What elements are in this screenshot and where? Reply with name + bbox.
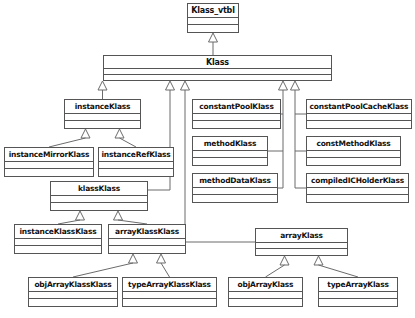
class-attributes-typeArrayKlass [319, 292, 397, 299]
class-name-typeArrayKlass: typeArrayKlass [319, 278, 397, 292]
class-operations-instanceMirrorKlass [5, 169, 93, 176]
class-name-methodDataKlass: methodDataKlass [193, 174, 277, 188]
generalization-arrow-right-column-to-klass [291, 81, 300, 90]
class-box-constMethodKlass[interactable]: constMethodKlass [306, 136, 401, 166]
class-operations-objArrayKlass [229, 299, 302, 306]
generalization-arrow-objArrayKlass-to-arrayKlass [280, 256, 289, 265]
class-box-instanceKlassKlass[interactable]: instanceKlassKlass [14, 224, 102, 254]
generalization-arrow-klass-to-klass_vtbl [209, 33, 218, 42]
class-operations-klass [104, 75, 331, 80]
class-name-typeArrayKlassKlass: typeArrayKlassKlass [123, 278, 216, 292]
class-name-klass_vtbl: Klass_vtbl [188, 4, 238, 18]
class-name-objArrayKlassKlass: objArrayKlassKlass [29, 278, 117, 292]
class-attributes-compiledICHolderKlass [307, 188, 408, 195]
class-box-instanceRefKlass[interactable]: instanceRefKlass [98, 147, 174, 177]
class-name-constantPoolCacheKlass: constantPoolCacheKlass [307, 100, 411, 114]
class-attributes-methodDataKlass [193, 188, 277, 195]
class-operations-objArrayKlassKlass [29, 299, 117, 306]
generalization-arrow-middle-column-to-klass [279, 81, 288, 90]
class-attributes-objArrayKlassKlass [29, 292, 117, 299]
class-operations-constMethodKlass [307, 158, 400, 165]
class-operations-klass_vtbl [188, 25, 238, 32]
class-box-objArrayKlass[interactable]: objArrayKlass [228, 277, 303, 307]
class-name-arrayKlass: arrayKlass [256, 229, 347, 243]
class-operations-constantPoolCacheKlass [307, 121, 411, 128]
class-box-arrayKlassKlass[interactable]: arrayKlassKlass [108, 224, 186, 254]
class-operations-methodKlass [193, 158, 267, 165]
class-name-constantPoolKlass: constantPoolKlass [193, 100, 280, 114]
class-attributes-klassKlass [51, 196, 147, 203]
class-name-instanceKlassKlass: instanceKlassKlass [15, 225, 101, 239]
generalization-arrow-arrayKlass-to-klass [181, 81, 190, 90]
generalization-arrow-objArrayKlassKlass-to-arrayKlassKlass [129, 254, 138, 263]
generalization-edge-typeArrayKlassKlass-to-arrayKlassKlass [161, 263, 170, 277]
class-box-klassKlass[interactable]: klassKlass [50, 181, 148, 211]
class-attributes-constantPoolKlass [193, 114, 280, 121]
class-box-objArrayKlassKlass[interactable]: objArrayKlassKlass [28, 277, 118, 307]
class-name-instanceRefKlass: instanceRefKlass [99, 148, 173, 162]
class-operations-methodDataKlass [193, 195, 277, 202]
class-attributes-instanceRefKlass [99, 162, 173, 169]
class-box-typeArrayKlass[interactable]: typeArrayKlass [318, 277, 398, 307]
class-attributes-instanceKlass [65, 114, 140, 121]
class-operations-constantPoolKlass [193, 121, 280, 128]
class-box-klass[interactable]: Klass [103, 55, 332, 81]
class-operations-typeArrayKlassKlass [123, 299, 216, 306]
class-name-methodKlass: methodKlass [193, 137, 267, 151]
class-box-compiledICHolderKlass[interactable]: compiledICHolderKlass [306, 173, 409, 203]
class-name-klass: Klass [104, 56, 331, 69]
class-attributes-instanceMirrorKlass [5, 162, 93, 169]
class-operations-typeArrayKlass [319, 299, 397, 306]
class-attributes-constantPoolCacheKlass [307, 114, 411, 121]
generalization-edge-instanceRefKlass-to-instanceKlass [120, 138, 137, 147]
generalization-arrow-instanceKlassKlass-to-klassKlass [76, 211, 85, 220]
class-name-constMethodKlass: constMethodKlass [307, 137, 400, 151]
class-box-methodDataKlass[interactable]: methodDataKlass [192, 173, 278, 203]
class-attributes-instanceKlassKlass [15, 239, 101, 246]
class-name-arrayKlassKlass: arrayKlassKlass [109, 225, 185, 239]
generalization-arrow-typeArrayKlassKlass-to-arrayKlassKlass [157, 254, 166, 263]
class-attributes-constMethodKlass [307, 151, 400, 158]
generalization-edge-typeArrayKlass-to-arrayKlass [319, 265, 359, 277]
generalization-edge-objArrayKlassKlass-to-arrayKlassKlass [73, 263, 133, 277]
class-operations-instanceKlassKlass [15, 246, 101, 253]
class-operations-arrayKlass [256, 249, 347, 255]
class-operations-klassKlass [51, 203, 147, 210]
class-attributes-methodKlass [193, 151, 267, 158]
class-attributes-klass_vtbl [188, 18, 238, 25]
class-name-instanceKlass: instanceKlass [65, 100, 140, 114]
class-operations-arrayKlassKlass [109, 246, 185, 253]
class-box-klass_vtbl[interactable]: Klass_vtbl [187, 3, 239, 33]
class-attributes-objArrayKlass [229, 292, 302, 299]
class-box-instanceMirrorKlass[interactable]: instanceMirrorKlass [4, 147, 94, 177]
generalization-arrow-instanceMirrorKlass-to-instanceKlass [81, 129, 90, 138]
generalization-edge-instanceMirrorKlass-to-instanceKlass [49, 138, 86, 147]
generalization-edge-objArrayKlass-to-arrayKlass [266, 265, 285, 277]
class-box-constantPoolCacheKlass[interactable]: constantPoolCacheKlass [306, 99, 412, 129]
generalization-arrow-instanceRefKlass-to-instanceKlass [115, 129, 124, 138]
class-operations-compiledICHolderKlass [307, 195, 408, 202]
class-box-constantPoolKlass[interactable]: constantPoolKlass [192, 99, 281, 129]
class-name-objArrayKlass: objArrayKlass [229, 278, 302, 292]
generalization-arrow-instanceKlass-to-klass [98, 81, 107, 90]
class-name-compiledICHolderKlass: compiledICHolderKlass [307, 174, 408, 188]
class-attributes-arrayKlassKlass [109, 239, 185, 246]
class-box-typeArrayKlassKlass[interactable]: typeArrayKlassKlass [122, 277, 217, 307]
class-box-instanceKlass[interactable]: instanceKlass [64, 99, 141, 129]
generalization-arrow-typeArrayKlass-to-arrayKlass [314, 256, 323, 265]
generalization-arrow-arrayKlassKlass-to-klassKlass [114, 211, 123, 220]
class-name-klassKlass: klassKlass [51, 182, 147, 196]
class-box-methodKlass[interactable]: methodKlass [192, 136, 268, 166]
class-diagram-canvas: Klass_vtblKlassinstanceKlassconstantPool… [0, 0, 415, 318]
class-operations-instanceKlass [65, 121, 140, 128]
class-operations-instanceRefKlass [99, 169, 173, 176]
class-name-instanceMirrorKlass: instanceMirrorKlass [5, 148, 93, 162]
class-attributes-typeArrayKlassKlass [123, 292, 216, 299]
class-box-arrayKlass[interactable]: arrayKlass [255, 228, 348, 256]
generalization-arrow-klassKlass-to-klass [166, 81, 175, 90]
